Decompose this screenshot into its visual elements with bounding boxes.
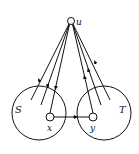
edge-y-u-arrow	[85, 77, 86, 79]
graph-diagram: u x y S T	[0, 0, 139, 154]
edge-y-u	[72, 22, 93, 113]
node-y-label: y	[89, 123, 96, 133]
edge-u-s-2	[41, 22, 70, 105]
edge-t-u-2-arrow	[88, 70, 89, 72]
edge-u-x	[50, 22, 70, 113]
edge-t-u-3-arrow	[95, 62, 96, 64]
node-x-label: x	[47, 123, 52, 133]
node-y	[89, 113, 97, 121]
node-x	[46, 113, 54, 121]
edge-s-u-1-arrow	[39, 80, 40, 82]
set-s-label: S	[15, 104, 22, 115]
set-t-label: T	[119, 104, 127, 115]
edge-t-u-3	[72, 22, 110, 100]
node-u-label: u	[76, 17, 82, 27]
node-u	[68, 18, 75, 25]
